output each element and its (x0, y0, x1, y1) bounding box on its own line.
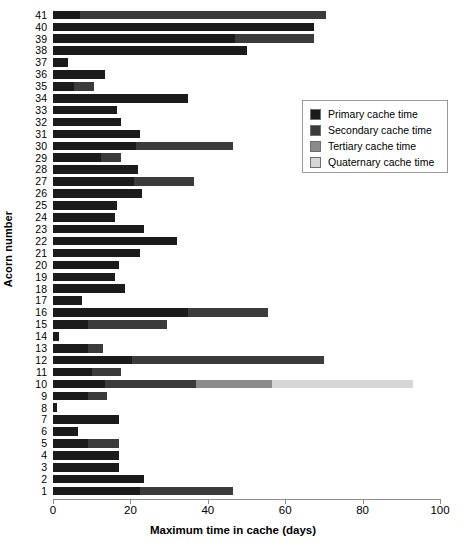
bar-segment-secondary[interactable] (88, 392, 107, 401)
bar-segment-secondary[interactable] (188, 308, 267, 317)
bar-segment-primary[interactable] (53, 153, 101, 162)
bar-segment-primary[interactable] (53, 439, 88, 448)
bar-segment-secondary[interactable] (88, 320, 167, 329)
bar-row[interactable] (53, 177, 440, 186)
bar-segment-primary[interactable] (53, 225, 144, 234)
bar-segment-primary[interactable] (53, 380, 105, 389)
bar-row[interactable] (53, 23, 440, 32)
bar-segment-primary[interactable] (53, 308, 188, 317)
bar-row[interactable] (53, 70, 440, 79)
bar-segment-primary[interactable] (53, 368, 92, 377)
bar-segment-primary[interactable] (53, 249, 140, 258)
bar-row[interactable] (53, 415, 440, 424)
bar-segment-secondary[interactable] (105, 380, 196, 389)
bar-segment-primary[interactable] (53, 356, 132, 365)
bar-row[interactable] (53, 82, 440, 91)
bar-segment-primary[interactable] (53, 463, 119, 472)
bar-segment-primary[interactable] (53, 320, 88, 329)
bar-row[interactable] (53, 189, 440, 198)
bar-segment-primary[interactable] (53, 237, 177, 246)
bar-row[interactable] (53, 392, 440, 401)
bar-row[interactable] (53, 284, 440, 293)
bar-segment-primary[interactable] (53, 415, 119, 424)
bar-segment-secondary[interactable] (140, 487, 233, 496)
bar-row[interactable] (53, 487, 440, 496)
legend-item[interactable]: Primary cache time (310, 106, 441, 122)
bar-segment-primary[interactable] (53, 261, 119, 270)
bar-segment-secondary[interactable] (74, 82, 93, 91)
bar-row[interactable] (53, 261, 440, 270)
bar-row[interactable] (53, 237, 440, 246)
bar-row[interactable] (53, 46, 440, 55)
bar-row[interactable] (53, 58, 440, 67)
bar-segment-primary[interactable] (53, 273, 115, 282)
y-axis-tick-label: 19 (35, 272, 47, 283)
bar-segment-secondary[interactable] (235, 34, 314, 43)
bar-segment-secondary[interactable] (132, 356, 324, 365)
bar-row[interactable] (53, 344, 440, 353)
bar-segment-secondary[interactable] (134, 177, 194, 186)
bar-segment-primary[interactable] (53, 82, 74, 91)
bar-segment-primary[interactable] (53, 142, 136, 151)
legend-item[interactable]: Secondary cache time (310, 122, 441, 138)
bar-segment-quaternary[interactable] (272, 380, 413, 389)
bar-row[interactable] (53, 308, 440, 317)
bar-segment-secondary[interactable] (80, 11, 326, 20)
bar-row[interactable] (53, 356, 440, 365)
y-axis-tick-label: 35 (35, 81, 47, 92)
bar-segment-primary[interactable] (53, 332, 59, 341)
bar-segment-secondary[interactable] (88, 439, 119, 448)
bar-segment-primary[interactable] (53, 177, 134, 186)
bar-segment-primary[interactable] (53, 130, 140, 139)
bar-row[interactable] (53, 439, 440, 448)
bar-row[interactable] (53, 368, 440, 377)
bar-row[interactable] (53, 11, 440, 20)
bar-segment-primary[interactable] (53, 46, 247, 55)
bar-row[interactable] (53, 249, 440, 258)
bar-segment-primary[interactable] (53, 201, 117, 210)
bar-segment-primary[interactable] (53, 213, 115, 222)
bar-row[interactable] (53, 296, 440, 305)
bar-segment-primary[interactable] (53, 392, 88, 401)
bar-segment-secondary[interactable] (92, 368, 121, 377)
bar-segment-primary[interactable] (53, 106, 117, 115)
bar-segment-primary[interactable] (53, 118, 121, 127)
bar-segment-primary[interactable] (53, 189, 142, 198)
bar-row[interactable] (53, 403, 440, 412)
bar-segment-primary[interactable] (53, 344, 88, 353)
bar-row[interactable] (53, 225, 440, 234)
bar-segment-primary[interactable] (53, 165, 138, 174)
legend-item[interactable]: Tertiary cache time (310, 138, 441, 154)
bar-segment-primary[interactable] (53, 487, 140, 496)
bar-segment-primary[interactable] (53, 94, 188, 103)
bar-segment-primary[interactable] (53, 403, 57, 412)
bar-segment-primary[interactable] (53, 34, 235, 43)
x-axis-title: Maximum time in cache (days) (0, 524, 466, 536)
legend-item[interactable]: Quaternary cache time (310, 154, 441, 170)
bar-segment-secondary[interactable] (136, 142, 233, 151)
bar-row[interactable] (53, 380, 440, 389)
bar-segment-primary[interactable] (53, 23, 314, 32)
bar-row[interactable] (53, 332, 440, 341)
bar-row[interactable] (53, 475, 440, 484)
bar-segment-primary[interactable] (53, 11, 80, 20)
bar-segment-secondary[interactable] (88, 344, 103, 353)
bar-segment-primary[interactable] (53, 70, 105, 79)
bar-segment-primary[interactable] (53, 296, 82, 305)
bar-row[interactable] (53, 451, 440, 460)
y-axis-tick-label: 17 (35, 295, 47, 306)
bar-segment-primary[interactable] (53, 58, 68, 67)
bar-row[interactable] (53, 320, 440, 329)
bar-row[interactable] (53, 201, 440, 210)
bar-segment-primary[interactable] (53, 475, 144, 484)
bar-row[interactable] (53, 463, 440, 472)
bar-row[interactable] (53, 34, 440, 43)
bar-row[interactable] (53, 213, 440, 222)
bar-row[interactable] (53, 273, 440, 282)
bar-segment-primary[interactable] (53, 427, 78, 436)
bar-segment-primary[interactable] (53, 451, 119, 460)
bar-segment-tertiary[interactable] (196, 380, 271, 389)
bar-segment-secondary[interactable] (101, 153, 120, 162)
bar-row[interactable] (53, 427, 440, 436)
bar-segment-primary[interactable] (53, 284, 125, 293)
